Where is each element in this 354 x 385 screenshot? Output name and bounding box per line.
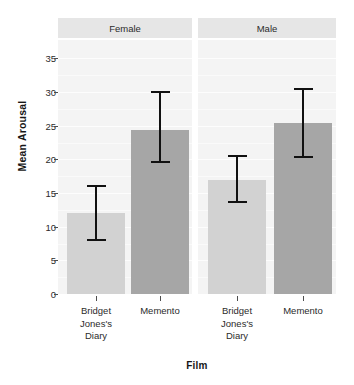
bar-female-memento xyxy=(131,130,189,294)
gridline-minor xyxy=(198,75,336,76)
facet-strip-male: Male xyxy=(198,18,336,38)
x-tick-label-line1: Memento xyxy=(271,305,335,318)
x-tick-label-male-bridget: Bridget Jones's Diary xyxy=(207,305,267,343)
x-tick-mark xyxy=(96,296,97,301)
error-bar-cap-lower xyxy=(228,201,247,203)
error-bar-male-memento xyxy=(274,88,332,158)
y-tick-label-20: 20 xyxy=(30,155,56,165)
y-tick-label-5: 5 xyxy=(30,256,56,266)
panel-male xyxy=(198,40,336,294)
facet-strip-label: Female xyxy=(109,23,141,34)
x-tick-label-line2: Jones's xyxy=(66,318,126,331)
error-bar-cap-lower xyxy=(294,156,313,158)
error-bar-cap-upper xyxy=(294,88,313,90)
x-tick-mark xyxy=(160,296,161,301)
error-bar-cap-upper xyxy=(228,155,247,157)
gridline-major xyxy=(198,58,336,59)
y-axis-title: Mean Arousal xyxy=(16,76,28,196)
error-bar-cap-upper xyxy=(87,185,106,187)
error-bar-line xyxy=(159,91,161,163)
bar-male-memento xyxy=(274,123,332,294)
y-tick-mark xyxy=(54,294,58,295)
x-tick-mark xyxy=(237,296,238,301)
y-tick-label-15: 15 xyxy=(30,189,56,199)
panel-female xyxy=(58,40,192,294)
x-tick-label-male-memento: Memento xyxy=(271,305,335,318)
bar-chart: Mean Arousal 35 30 25 20 15 10 5 0 Femal… xyxy=(0,0,354,385)
x-tick-label-line3: Diary xyxy=(66,330,126,343)
error-bar-female-bridget-jones-diary xyxy=(67,185,125,241)
error-bar-female-memento xyxy=(131,91,189,163)
x-tick-label-line3: Diary xyxy=(207,330,267,343)
y-tick-label-30: 30 xyxy=(30,88,56,98)
x-tick-label-line1: Bridget xyxy=(66,305,126,318)
error-bar-male-bridget-jones-diary xyxy=(208,155,266,203)
facet-strip-label: Male xyxy=(257,23,278,34)
x-tick-label-female-bridget: Bridget Jones's Diary xyxy=(66,305,126,343)
y-tick-label-35: 35 xyxy=(30,54,56,64)
error-bar-cap-upper xyxy=(151,91,170,93)
error-bar-line xyxy=(236,155,238,203)
error-bar-cap-lower xyxy=(151,161,170,163)
gridline-major xyxy=(58,58,192,59)
y-tick-label-10: 10 xyxy=(30,223,56,233)
x-axis-title: Film xyxy=(58,360,336,371)
x-tick-label-female-memento: Memento xyxy=(128,305,192,318)
error-bar-line xyxy=(95,185,97,241)
y-tick-label-25: 25 xyxy=(30,122,56,132)
gridline-minor xyxy=(58,75,192,76)
bar-female-bridget-jones-diary xyxy=(67,213,125,294)
bar-male-bridget-jones-diary xyxy=(208,180,266,294)
x-tick-mark xyxy=(303,296,304,301)
error-bar-cap-lower xyxy=(87,239,106,241)
error-bar-line xyxy=(302,88,304,158)
y-tick-label-0: 0 xyxy=(30,290,56,300)
x-tick-label-line1: Memento xyxy=(128,305,192,318)
x-tick-label-line1: Bridget xyxy=(207,305,267,318)
facet-strip-female: Female xyxy=(58,18,192,38)
x-tick-label-line2: Jones's xyxy=(207,318,267,331)
